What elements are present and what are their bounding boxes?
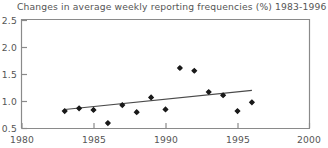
x-tick-label-2000: 2000 <box>297 134 321 145</box>
chart-container: Changes in average weekly reporting freq… <box>0 0 328 148</box>
data-point-core <box>77 106 81 110</box>
y-tick-label-2.5: 2.5 <box>2 15 17 26</box>
data-point-core <box>63 109 67 113</box>
data-point-core <box>120 103 124 107</box>
y-tick-label-0.5: 0.5 <box>2 123 17 134</box>
data-point-core <box>106 121 110 125</box>
scatter-plot: 2.5 2.0 1.5 1.0 0.5 1980 1985 1990 1995 … <box>0 0 328 148</box>
data-point-core <box>164 108 168 112</box>
data-point-core <box>236 109 240 113</box>
x-tick-label-1995: 1995 <box>226 134 250 145</box>
y-tick-label-1.0: 1.0 <box>2 96 17 107</box>
x-tick-label-1990: 1990 <box>154 134 178 145</box>
data-point-core <box>149 96 153 100</box>
data-point-core <box>135 110 139 114</box>
x-axis-tick-labels: 1980 1985 1990 1995 2000 <box>10 134 321 145</box>
data-point-core <box>207 90 211 94</box>
data-point-group <box>62 65 255 126</box>
x-tick-label-1985: 1985 <box>82 134 106 145</box>
y-axis-ticks <box>22 21 28 129</box>
y-tick-label-2.0: 2.0 <box>2 42 17 53</box>
data-point-core <box>92 108 96 112</box>
data-point-core <box>250 100 254 104</box>
data-point-core <box>221 93 225 97</box>
data-point-core <box>178 66 182 70</box>
x-axis-ticks <box>22 123 310 129</box>
y-tick-label-1.5: 1.5 <box>2 69 17 80</box>
x-tick-label-1980: 1980 <box>10 134 34 145</box>
y-axis-tick-labels: 2.5 2.0 1.5 1.0 0.5 <box>2 15 17 134</box>
data-point-core <box>192 69 196 73</box>
